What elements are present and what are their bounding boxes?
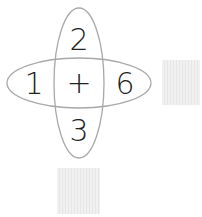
- answer-box-right[interactable]: [162, 60, 200, 105]
- answer-box-bottom[interactable]: [57, 168, 100, 214]
- left-number: 1: [19, 69, 49, 99]
- right-number: 6: [110, 69, 140, 99]
- top-number: 2: [64, 25, 94, 55]
- ellipse-diagram: [0, 0, 202, 217]
- bottom-number: 3: [64, 116, 94, 146]
- center-operator: +: [64, 68, 94, 98]
